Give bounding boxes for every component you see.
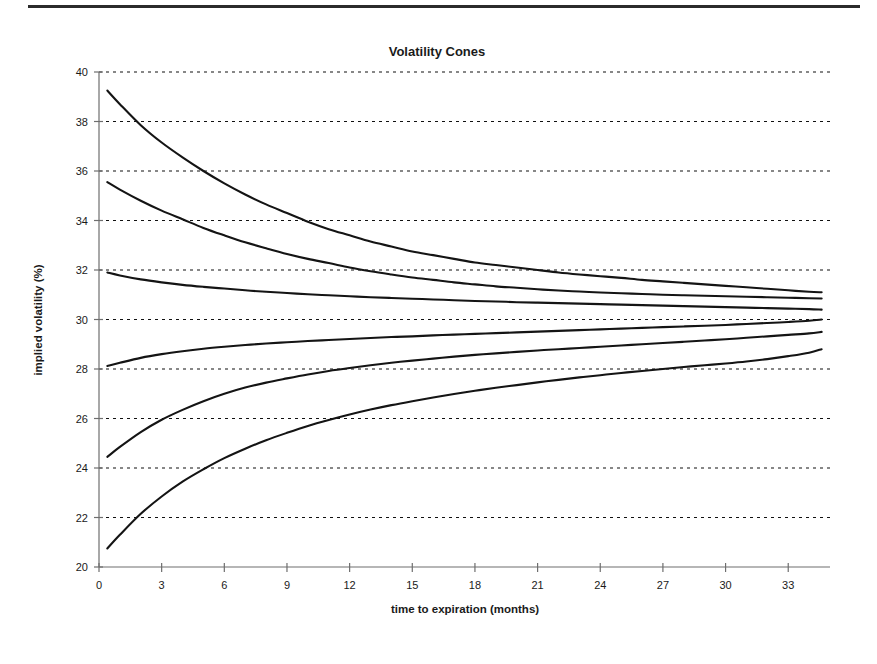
volatility-cones-chart: 2022242628303234363840036912151821242730… xyxy=(0,0,877,664)
x-tick-label-30: 30 xyxy=(719,579,731,591)
x-tick-label-33: 33 xyxy=(782,579,794,591)
cone-curve-2 xyxy=(107,272,821,309)
y-tick-label-36: 36 xyxy=(76,165,88,177)
y-tick-label-30: 30 xyxy=(76,314,88,326)
y-tick-label-40: 40 xyxy=(76,66,88,78)
y-tick-label-28: 28 xyxy=(76,363,88,375)
x-tick-label-15: 15 xyxy=(406,579,418,591)
chart-title: Volatility Cones xyxy=(389,44,486,59)
page-canvas: 2022242628303234363840036912151821242730… xyxy=(0,0,877,664)
x-tick-label-27: 27 xyxy=(657,579,669,591)
y-tick-label-38: 38 xyxy=(76,116,88,128)
cone-curve-4 xyxy=(107,332,821,457)
cone-curve-3 xyxy=(107,320,821,367)
x-tick-label-6: 6 xyxy=(221,579,227,591)
x-tick-label-18: 18 xyxy=(469,579,481,591)
x-tick-label-21: 21 xyxy=(531,579,543,591)
y-axis-title: implied volatility (%) xyxy=(32,264,44,375)
y-tick-label-32: 32 xyxy=(76,264,88,276)
tick-labels-group: 2022242628303234363840036912151821242730… xyxy=(76,66,795,591)
x-tick-label-3: 3 xyxy=(159,579,165,591)
cone-curve-1 xyxy=(107,182,821,298)
gridlines-group xyxy=(99,72,830,518)
cone-curve-0 xyxy=(107,91,821,293)
cone-curve-5 xyxy=(107,349,821,548)
x-axis-title: time to expiration (months) xyxy=(391,603,539,615)
x-tick-label-24: 24 xyxy=(594,579,606,591)
y-tick-label-22: 22 xyxy=(76,512,88,524)
y-tick-label-34: 34 xyxy=(76,215,88,227)
y-tick-label-26: 26 xyxy=(76,413,88,425)
y-tick-label-20: 20 xyxy=(76,561,88,573)
y-tick-label-24: 24 xyxy=(76,462,88,474)
axes-group xyxy=(94,72,830,572)
x-tick-label-9: 9 xyxy=(284,579,290,591)
x-tick-label-0: 0 xyxy=(96,579,102,591)
x-tick-label-12: 12 xyxy=(344,579,356,591)
